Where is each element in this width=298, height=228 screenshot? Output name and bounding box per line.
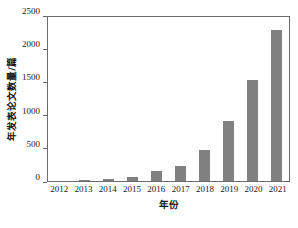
bar-slot: [144, 17, 168, 181]
bar-2020[interactable]: [247, 80, 258, 181]
bar-slot: [241, 17, 265, 181]
x-axis-title: 年份: [47, 197, 290, 211]
x-axis-tick-label: 2012: [47, 184, 71, 194]
bar-chart-figure: 年发表论文数量/篇 05001000150020002500 201220132…: [0, 0, 298, 228]
bar-2018[interactable]: [199, 150, 210, 181]
x-axis-tick-label: 2017: [168, 184, 192, 194]
bar-2014[interactable]: [103, 179, 114, 181]
x-axis-tick-label: 2019: [217, 184, 241, 194]
bar-slot: [265, 17, 289, 181]
bar-2021[interactable]: [271, 30, 282, 181]
x-axis-tick-label: 2016: [144, 184, 168, 194]
x-axis-ticks: 2012201320142015201620172018201920202021: [47, 184, 290, 194]
bar-slot: [96, 17, 120, 181]
plot-area: [47, 16, 290, 182]
bar-slot: [217, 17, 241, 181]
x-axis-tick-label: 2015: [120, 184, 144, 194]
bar-slot: [193, 17, 217, 181]
bar-slot: [120, 17, 144, 181]
bar-slot: [72, 17, 96, 181]
bar-2013[interactable]: [79, 180, 90, 181]
x-axis-tick-label: 2021: [266, 184, 290, 194]
bar-2016[interactable]: [151, 171, 162, 181]
bar-2015[interactable]: [127, 177, 138, 181]
bar-2017[interactable]: [175, 166, 186, 181]
y-axis-title-text: 年发表论文数量/篇: [4, 57, 18, 140]
bar-slot: [168, 17, 192, 181]
x-axis-tick-label: 2020: [241, 184, 265, 194]
y-axis-title: 年发表论文数量/篇: [4, 16, 18, 182]
x-axis-tick-label: 2013: [71, 184, 95, 194]
x-axis-tick-label: 2014: [96, 184, 120, 194]
x-axis-tick-label: 2018: [193, 184, 217, 194]
bar-slot: [48, 17, 72, 181]
bar-2019[interactable]: [223, 121, 234, 181]
bar-series: [48, 17, 289, 181]
